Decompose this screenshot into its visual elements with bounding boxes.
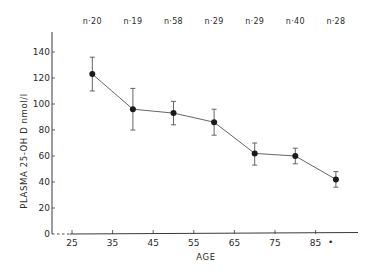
data-point: [171, 110, 177, 116]
x-tick-label: 35: [107, 238, 118, 248]
x-tick-label: 45: [147, 238, 158, 248]
y-tick-label: 20: [39, 203, 51, 213]
data-point: [333, 176, 339, 182]
x-tick-label: 65: [229, 238, 240, 248]
y-tick-label: 100: [33, 99, 50, 109]
x-tick-label: 25: [66, 238, 77, 248]
x-axis: 25354555657585•: [52, 230, 358, 248]
sample-size-label: n·20: [83, 17, 102, 26]
sample-size-label: n·58: [164, 17, 183, 26]
y-tick-label: 40: [39, 177, 51, 187]
sample-size-label: n·28: [326, 17, 345, 26]
y-tick-label: 0: [44, 229, 50, 239]
x-tick-label: 55: [188, 238, 199, 248]
y-axis: 020406080100120140: [33, 32, 55, 239]
y-axis-title: PLASMA 25-OH D nmol/l: [19, 93, 29, 208]
sample-size-label: n·29: [245, 17, 264, 26]
sample-size-label: n·40: [286, 17, 305, 26]
data-point: [89, 71, 95, 77]
sample-size-label: n·29: [205, 17, 224, 26]
y-tick-label: 140: [33, 47, 50, 57]
data-series: [89, 57, 339, 187]
data-point: [292, 153, 298, 159]
y-tick-label: 120: [33, 73, 50, 83]
data-point: [211, 119, 217, 125]
x-tick-label: 85: [310, 238, 321, 248]
y-tick-label: 80: [39, 125, 51, 135]
chart: n·20n·19n·58n·29n·29n·40n·28 02040608010…: [0, 0, 376, 277]
sample-size-labels: n·20n·19n·58n·29n·29n·40n·28: [83, 17, 346, 26]
x-axis-title: AGE: [196, 252, 215, 262]
data-point: [130, 106, 136, 112]
y-tick-label: 60: [39, 151, 51, 161]
x-tick-label: 75: [269, 238, 280, 248]
x-tail-marker: •: [328, 237, 333, 247]
x-axis-line: [70, 233, 358, 235]
sample-size-label: n·19: [123, 17, 142, 26]
data-point: [252, 150, 258, 156]
